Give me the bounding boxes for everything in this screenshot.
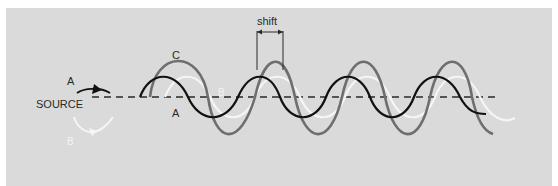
label-arrow-a: A [67, 76, 74, 87]
shift-arrow-right-icon [278, 30, 283, 35]
label-arrow-b: B [67, 137, 74, 147]
label-shift: shift [257, 16, 277, 27]
label-wave-b: B [218, 88, 225, 98]
label-source: SOURCE [36, 99, 83, 110]
arrow-a-head-icon [92, 84, 102, 94]
label-wave-c: C [172, 50, 180, 61]
wave-diagram [0, 0, 558, 186]
label-wave-a: A [172, 108, 179, 119]
shift-arrow-left-icon [257, 30, 262, 35]
wave-b [165, 77, 515, 120]
